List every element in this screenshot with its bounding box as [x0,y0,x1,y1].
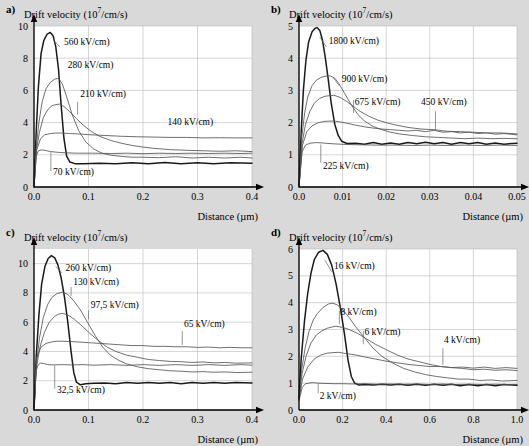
y-tick-label: 0 [23,182,28,193]
x-tick-label: 0.8 [467,414,480,425]
x-tick-label: 1.0 [511,414,524,425]
y-tick-label: 1 [288,149,293,160]
x-tick-label: 0.0 [293,191,306,202]
curve-label-16kvcm: 16 kV/cm) [334,261,375,272]
x-axis-arrow [256,184,264,190]
y-tick-label: 4 [23,346,28,357]
curve-label-1800kvcm: 1800 kV/cm) [329,36,379,47]
curve-label-280kvcm: 280 kV/cm) [68,60,114,71]
y-tick-label: 6 [288,244,293,255]
x-tick-label: 0.4 [246,191,259,202]
y-tick-label: 10 [18,258,28,269]
y-tick-label: 3 [288,324,293,335]
curve-label-210kvcm: 210 kV/cm) [80,89,126,100]
x-tick-label: 0.0 [28,191,41,202]
curve-label-65kvcm: 65 kV/cm) [184,319,225,330]
x-tick-label: 0.1 [82,414,95,425]
x-tick-label: 0.2 [137,414,150,425]
y-tick-label: 6 [23,85,28,96]
panel-a-gan: a)Drift velocity (107/cm/s)Distance (µm)… [0,0,264,223]
curve-label-8kvcm: 8 kV/cm) [340,307,376,318]
plot-area: 1800 kV/cm)900 kV/cm)675 kV/cm)450 kV/cm… [265,0,529,223]
y-tick-label: 10 [18,21,28,32]
y-axis-arrow [296,237,302,245]
y-tick-label: 2 [23,375,28,386]
x-tick-label: 0.1 [82,191,95,202]
x-tick-label: 0.03 [421,191,439,202]
x-tick-label: 0.2 [336,414,349,425]
curve-label-675kvcm: 675 kV/cm) [355,97,401,108]
curve-label-70kvcm: 70 kV/cm) [53,167,94,178]
y-axis-arrow [31,237,37,245]
x-tick-label: 0.01 [334,191,352,202]
curve-label-4kvcm: 4 kV/cm) [444,335,480,346]
plot-area: 16 kV/cm)8 kV/cm)6 kV/cm)4 kV/cm)2 kV/cm… [265,223,529,446]
y-tick-label: 1 [288,378,293,389]
y-tick-label: 2 [288,117,293,128]
curve-label-260kvcm: 260 kV/cm) [66,263,112,274]
panel-b-aln: b)Drift velocity (107/cm/s)Distance (µm)… [265,0,529,223]
curve-label-560kvcm: 560 kV/cm) [64,37,110,48]
y-tick-label: 4 [288,297,293,308]
y-tick-label: 8 [23,287,28,298]
curve-label-450kvcm: 450 kV/cm) [421,97,467,108]
y-axis-arrow [296,14,302,22]
curve-label-130kvcm: 130 kV/cm) [73,277,119,288]
curve-label-32.5kvcm: 32,5 kV/cm) [57,385,105,396]
y-tick-label: 6 [23,317,28,328]
curve-label-140kvcm: 140 kV/cm) [168,117,214,128]
y-tick-label: 0 [23,405,28,416]
y-tick-label: 5 [288,21,293,32]
plot-area: 260 kV/cm)130 kV/cm)97,5 kV/cm)65 kV/cm)… [0,223,264,446]
x-tick-label: 0.02 [377,191,395,202]
y-axis-arrow [31,14,37,22]
x-tick-label: 0.4 [380,414,393,425]
x-tick-label: 0.6 [424,414,437,425]
x-tick-label: 0.4 [246,414,259,425]
curve-label-2kvcm: 2 kV/cm) [320,391,356,402]
y-tick-label: 8 [23,53,28,64]
panel-d-gaas: d)Drift velocity (107/cm/s)Distance (µm)… [265,223,529,446]
x-tick-label: 0.04 [465,191,483,202]
curve-label-900kvcm: 900 kV/cm) [342,74,388,85]
x-tick-label: 0.05 [508,191,526,202]
curve-label-6kvcm: 6 kV/cm) [364,327,400,338]
x-axis-arrow [256,407,264,413]
y-tick-label: 5 [288,270,293,281]
x-tick-label: 0.0 [28,414,41,425]
y-tick-label: 0 [288,405,293,416]
panel-c-inn: c)Drift velocity (107/cm/s)Distance (µm)… [0,223,264,446]
x-tick-label: 0.3 [191,191,204,202]
x-axis-arrow [521,184,529,190]
y-tick-label: 4 [288,53,293,64]
curve-label-97.5kvcm: 97,5 kV/cm) [91,300,139,311]
y-tick-label: 2 [288,351,293,362]
y-tick-label: 2 [23,149,28,160]
x-tick-label: 0.3 [191,414,204,425]
figure-container: a)Drift velocity (107/cm/s)Distance (µm)… [0,0,529,446]
y-tick-label: 3 [288,85,293,96]
x-tick-label: 0.0 [293,414,306,425]
curve-label-225kvcm: 225 kV/cm) [323,161,369,172]
x-tick-label: 0.2 [137,191,150,202]
y-tick-label: 4 [23,117,28,128]
y-tick-label: 0 [288,182,293,193]
plot-area: 560 kV/cm)280 kV/cm)210 kV/cm)140 kV/cm)… [0,0,264,223]
x-axis-arrow [521,407,529,413]
